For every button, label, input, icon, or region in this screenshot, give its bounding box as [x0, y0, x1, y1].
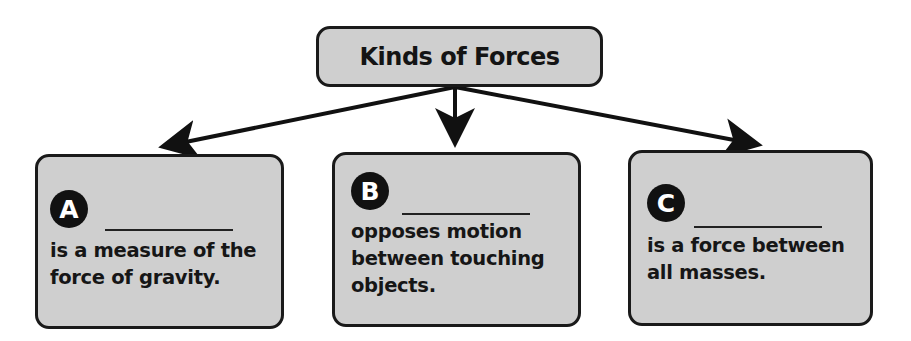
arrow-to-card-a: [166, 87, 455, 146]
card-c-text: is a force between all masses.: [647, 232, 845, 286]
blank-line-a[interactable]: [105, 229, 233, 231]
card-b: B opposes motion between touching object…: [332, 152, 581, 327]
badge-a-icon: A: [50, 190, 88, 228]
blank-line-c[interactable]: [694, 226, 822, 228]
arrow-to-card-c: [455, 87, 755, 144]
card-a-text: is a measure of the force of gravity.: [50, 237, 256, 291]
blank-line-b[interactable]: [402, 213, 530, 215]
card-a: A is a measure of the force of gravity.: [35, 154, 284, 329]
card-b-text: opposes motion between touching objects.: [351, 218, 544, 299]
badge-b-icon: B: [351, 172, 389, 210]
badge-c-icon: C: [647, 184, 685, 222]
card-c: C is a force between all masses.: [628, 150, 873, 326]
diagram-title: Kinds of Forces: [359, 43, 559, 71]
title-box: Kinds of Forces: [316, 26, 603, 87]
